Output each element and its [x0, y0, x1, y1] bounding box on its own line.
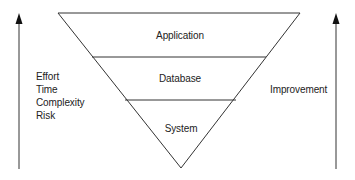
layer-system-label: System [121, 122, 241, 135]
left-axis-label-effort: Effort [36, 70, 59, 83]
diagram-canvas: Application Database System Effort Time … [0, 0, 355, 180]
right-up-arrow-icon [333, 13, 340, 169]
right-axis-label-improvement: Improvement [270, 83, 327, 96]
left-axis-label-risk: Risk [36, 109, 55, 122]
layer-database-label: Database [120, 72, 240, 85]
left-axis-label-time: Time [36, 83, 57, 96]
layer-application-label: Application [120, 29, 240, 42]
left-axis-label-complexity: Complexity [36, 96, 84, 109]
left-up-arrow-icon [16, 13, 23, 169]
